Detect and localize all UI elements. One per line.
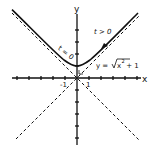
tick-label-neg-one: -1 xyxy=(60,81,67,89)
equation-label: y = x 2 + 1 xyxy=(96,58,139,70)
hyperbola-curve xyxy=(12,10,138,66)
x-axis-label: x xyxy=(142,74,148,84)
equation-prefix: y = xyxy=(96,62,110,70)
t-positive-label: t > 0 xyxy=(94,28,112,36)
equation-suffix: + 1 xyxy=(124,62,139,70)
asymptotes xyxy=(12,13,140,141)
tick-label-pos-one: 1 xyxy=(86,81,90,89)
asymptote-y-equals-x xyxy=(16,15,140,139)
hyperbola-diagram: y x -1 1 t = 0 t > 0 y = x 2 + 1 xyxy=(0,0,153,149)
y-axis-label: y xyxy=(74,4,80,14)
asymptote-y-equals-neg-x xyxy=(12,13,140,141)
t-zero-label: t = 0 xyxy=(56,44,75,61)
